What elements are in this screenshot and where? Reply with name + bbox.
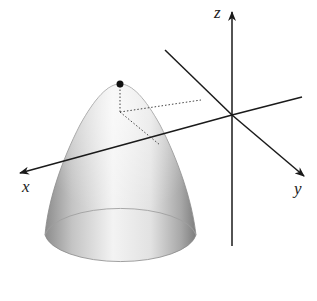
x-axis-label: x: [22, 178, 30, 195]
y-axis: [232, 115, 304, 176]
diagram-canvas: x y z: [0, 0, 317, 301]
vertex-point: [117, 81, 124, 88]
x-axis-back: [232, 97, 302, 115]
y-axis-back: [165, 50, 232, 115]
z-axis-label: z: [214, 4, 221, 21]
paraboloid-figure: [0, 0, 317, 301]
y-axis-label: y: [294, 180, 302, 197]
